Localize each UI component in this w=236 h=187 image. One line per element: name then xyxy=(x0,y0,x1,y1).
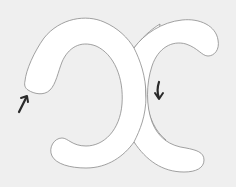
tracing-worksheet: x xyxy=(0,0,236,187)
